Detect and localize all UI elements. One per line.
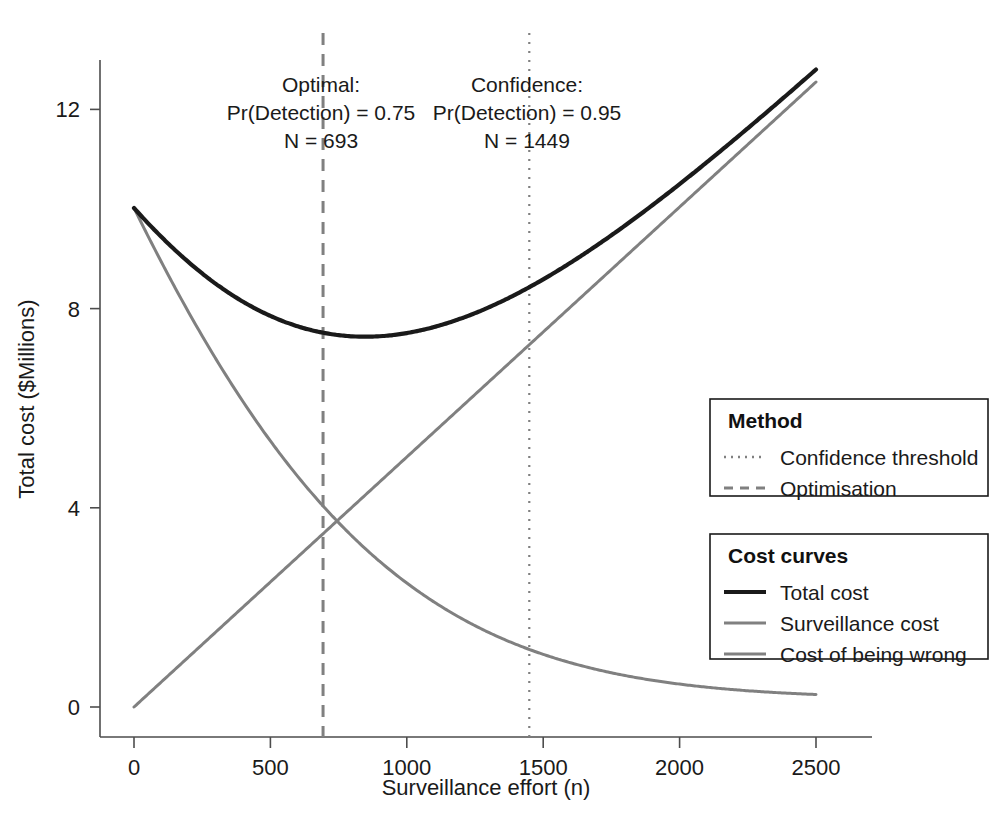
y-tick-label: 0 [68,695,80,720]
legend-label-surveillance-cost[interactable]: Surveillance cost [780,612,939,635]
method-legend-title: Method [728,409,803,432]
optimal-annotation-line-3: N = 693 [284,129,358,152]
optimal-annotation: Optimal: Pr(Detection) = 0.75 N = 693 [227,73,416,152]
x-axis-title: Surveillance effort (n) [382,775,591,800]
y-tick-label: 12 [56,97,80,122]
confidence-annotation-line-1: Confidence: [471,73,583,96]
chart-figure: 04812 05001000150020002500 Optimal: Pr(D… [0,0,1002,834]
confidence-annotation: Confidence: Pr(Detection) = 0.95 N = 144… [433,73,622,152]
cost-curve-chart: 04812 05001000150020002500 Optimal: Pr(D… [0,0,1002,834]
y-tick-label: 8 [68,297,80,322]
confidence-annotation-line-2: Pr(Detection) = 0.95 [433,101,622,124]
legend-label-cost-of-being-wrong[interactable]: Cost of being wrong [780,643,967,666]
x-tick-label: 2000 [655,755,704,780]
x-tick-label: 0 [128,755,140,780]
legend-label-total-cost[interactable]: Total cost [780,581,869,604]
x-tick-label: 500 [252,755,289,780]
cost-curves-legend-title: Cost curves [728,544,848,567]
y-tick-label: 4 [68,496,80,521]
y-axis-title: Total cost ($Millions) [14,299,39,498]
x-tick-label: 2500 [792,755,841,780]
legends: MethodConfidence thresholdOptimisationCo… [710,399,988,666]
y-axis-ticks: 04812 [56,97,100,720]
optimal-annotation-line-1: Optimal: [282,73,360,96]
x-axis-ticks: 05001000150020002500 [128,737,841,780]
confidence-annotation-line-3: N = 1449 [484,129,570,152]
optimal-annotation-line-2: Pr(Detection) = 0.75 [227,101,416,124]
legend-label-optimisation[interactable]: Optimisation [780,477,897,500]
legend-label-confidence-threshold[interactable]: Confidence threshold [780,446,978,469]
